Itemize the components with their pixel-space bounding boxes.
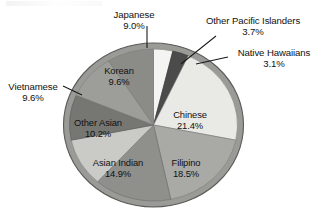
pie-chart: Japanese 9.0% Other Pacific Islanders 3.… [0, 0, 321, 218]
label-filipino-percent: 18.5% [158, 169, 214, 180]
label-native-hawaiians-percent: 3.1% [227, 59, 321, 70]
label-vietnamese: Vietnamese 9.6% [2, 82, 64, 103]
label-vietnamese-percent: 9.6% [2, 93, 64, 104]
label-native-hawaiians: Native Hawaiians 3.1% [227, 48, 321, 69]
label-other-asian-name: Other Asian [62, 118, 134, 129]
label-asian-indian: Asian Indian 14.9% [80, 158, 156, 179]
label-other-pacific-islanders: Other Pacific Islanders 3.7% [186, 16, 320, 37]
label-asian-indian-percent: 14.9% [80, 169, 156, 180]
label-korean: Korean 9.6% [92, 66, 146, 87]
label-chinese-percent: 21.4% [162, 121, 218, 132]
label-filipino: Filipino 18.5% [158, 158, 214, 179]
label-other-pacific-islanders-percent: 3.7% [186, 27, 320, 38]
label-japanese: Japanese 9.0% [98, 10, 170, 31]
label-filipino-name: Filipino [158, 158, 214, 169]
label-other-asian-percent: 10.2% [62, 129, 134, 140]
label-chinese: Chinese 21.4% [162, 110, 218, 131]
label-korean-percent: 9.6% [92, 77, 146, 88]
label-japanese-percent: 9.0% [98, 21, 170, 32]
label-asian-indian-name: Asian Indian [80, 158, 156, 169]
label-chinese-name: Chinese [162, 110, 218, 121]
label-korean-name: Korean [92, 66, 146, 77]
label-other-asian: Other Asian 10.2% [62, 118, 134, 139]
